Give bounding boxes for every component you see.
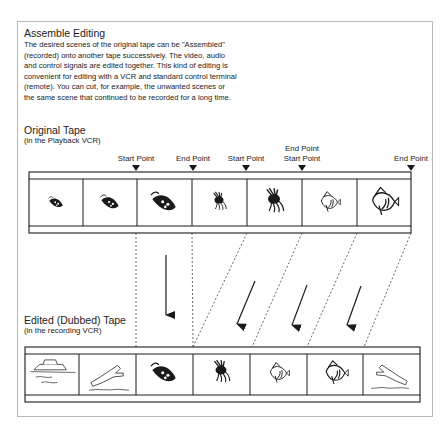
- arrow-diagonal-icon: [347, 286, 361, 325]
- arrow-diagonal-icon: [237, 281, 255, 324]
- arrow-diagonal-icon: [292, 285, 307, 325]
- original-tape: [29, 165, 415, 233]
- editing-diagram: [0, 0, 447, 429]
- edited-tape: [25, 347, 420, 402]
- transfer-arrows: [166, 255, 361, 325]
- connector-lines: [136, 233, 411, 347]
- edit-point-markers: [132, 165, 415, 171]
